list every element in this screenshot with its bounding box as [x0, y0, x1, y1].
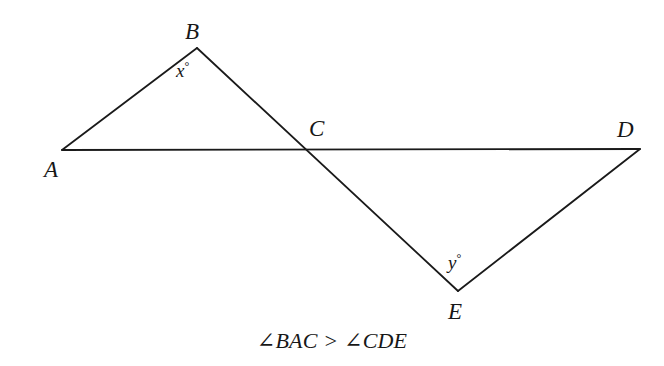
- geometry-figure: A B C D E x° y° ∠BAC > ∠CDE: [0, 0, 664, 366]
- geometry-canvas: [0, 0, 664, 366]
- vertex-label-e: E: [448, 300, 462, 323]
- angle-label-y: y°: [448, 252, 461, 272]
- vertex-label-a: A: [44, 158, 58, 181]
- figure-caption: ∠BAC > ∠CDE: [0, 329, 664, 353]
- segment-ED: [458, 149, 640, 291]
- segment-BE: [197, 48, 458, 291]
- vertex-label-d: D: [617, 118, 634, 141]
- angle-label-x: x°: [176, 60, 189, 80]
- vertex-label-b: B: [185, 20, 199, 43]
- segment-AD: [62, 149, 640, 150]
- degree-symbol-x: °: [184, 59, 189, 73]
- degree-symbol-y: °: [456, 251, 461, 265]
- vertex-label-c: C: [309, 117, 324, 140]
